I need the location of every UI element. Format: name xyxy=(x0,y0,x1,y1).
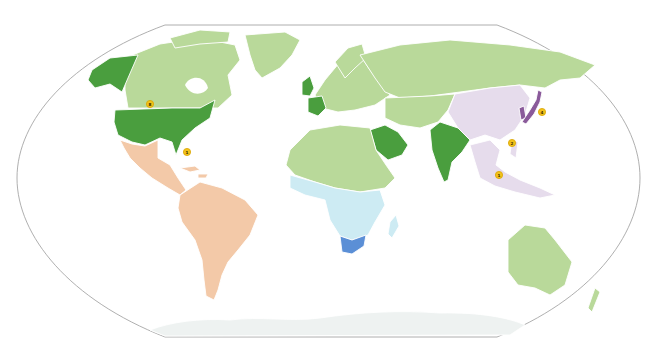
badge-japan[interactable]: 4 xyxy=(538,108,545,115)
badge-philippines[interactable]: 2 xyxy=(508,139,515,146)
badge-label: 2 xyxy=(511,141,514,146)
badge-united-states[interactable]: 8 xyxy=(146,100,153,107)
badge-label: 8 xyxy=(149,102,152,107)
badge-indonesia[interactable]: 1 xyxy=(495,171,502,178)
world-map: 8 1 4 2 1 xyxy=(0,0,657,356)
badge-label: 1 xyxy=(498,173,501,178)
country-new-zealand[interactable] xyxy=(588,288,600,312)
badge-label: 4 xyxy=(541,110,544,115)
badge-caribbean[interactable]: 1 xyxy=(183,148,190,155)
badge-label: 1 xyxy=(186,150,189,155)
